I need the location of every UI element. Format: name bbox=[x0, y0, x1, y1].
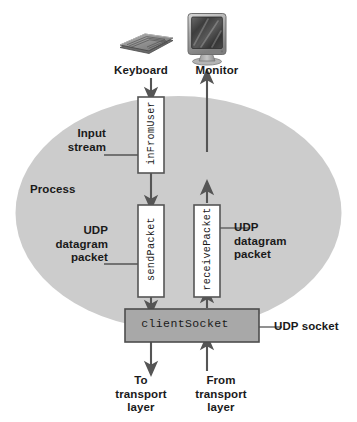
from-transport-layer-label: From transport layer bbox=[186, 374, 256, 415]
monitor-power-led bbox=[221, 50, 223, 52]
keyboard-label: Keyboard bbox=[106, 64, 176, 78]
client-socket-code-label: clientSocket bbox=[141, 317, 229, 330]
udp-socket-diagram: Keyboard Monitor inFromUser sendPacket r… bbox=[0, 0, 357, 422]
to-transport-layer-label: To transport layer bbox=[106, 374, 176, 415]
receive-packet-code-label: receivePacket bbox=[202, 207, 213, 290]
in-from-user-code-label: inFromUser bbox=[146, 101, 157, 165]
monitor-label: Monitor bbox=[182, 64, 252, 78]
udp-datagram-packet-callout-left: UDP datagram packet bbox=[26, 224, 108, 265]
keyboard-icon bbox=[120, 34, 173, 54]
diagram-canvas bbox=[0, 0, 357, 422]
udp-datagram-packet-callout-right: UDP datagram packet bbox=[234, 221, 320, 262]
input-stream-callout: Input stream bbox=[26, 127, 106, 154]
process-label: Process bbox=[30, 183, 110, 197]
send-packet-code-label: sendPacket bbox=[146, 217, 157, 281]
udp-socket-callout: UDP socket bbox=[274, 320, 354, 334]
monitor-icon bbox=[188, 14, 226, 66]
monitor-stand bbox=[199, 54, 215, 61]
